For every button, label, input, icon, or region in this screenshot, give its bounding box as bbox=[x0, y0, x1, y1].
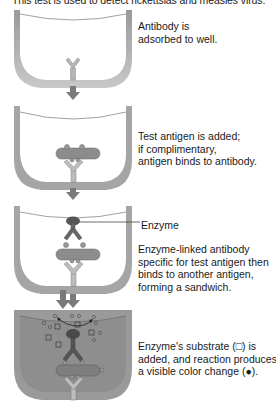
step-3-line-3: binds to another antigen, bbox=[138, 268, 269, 281]
step-2-line-1: Test antigen is added; bbox=[138, 130, 257, 143]
down-arrow-icon bbox=[66, 86, 80, 100]
antibody-icon bbox=[64, 160, 83, 182]
step-1-label: Antibody is adsorbed to well. bbox=[138, 20, 217, 45]
enzyme-callout: Enzyme bbox=[141, 219, 179, 231]
step-2-line-2: if complimentary, bbox=[138, 143, 257, 156]
antibody-icon bbox=[64, 262, 83, 286]
step-3-label: Enzyme-linked antibody specific for test… bbox=[138, 243, 269, 293]
well-1 bbox=[12, 8, 136, 100]
antibody-icon bbox=[66, 58, 80, 80]
step-3-line-1: Enzyme-linked antibody bbox=[138, 243, 269, 256]
step-2-label: Test antigen is added; if complimentary,… bbox=[138, 130, 257, 168]
step-3-line-4: forming a sandwich. bbox=[138, 281, 269, 294]
figure-title: This test is used to detect rickettsias … bbox=[12, 0, 265, 6]
step-2-panel: Test antigen is added; if complimentary,… bbox=[0, 104, 276, 202]
enzyme-icon bbox=[66, 329, 80, 339]
well-4 bbox=[12, 308, 136, 402]
step-4-panel: Enzyme's substrate (□) is added, and rea… bbox=[0, 308, 276, 402]
step-2-line-3: antigen binds to antibody. bbox=[138, 155, 257, 168]
step-3-line-2: specific for test antigen then bbox=[138, 256, 269, 269]
enzyme-linked-antibody-icon bbox=[64, 223, 82, 240]
step-4-line-3: a visible color change (●). bbox=[138, 365, 276, 378]
step-4-label: Enzyme's substrate (□) is added, and rea… bbox=[138, 340, 276, 378]
step-3-panel: Enzyme Enzyme-linked antibody specific f… bbox=[0, 204, 276, 308]
step-4-line-2: added, and reaction produces bbox=[138, 353, 276, 366]
antigen-icon bbox=[56, 243, 100, 264]
step-1-panel: Antibody is adsorbed to well. bbox=[0, 8, 276, 103]
down-arrow-icon bbox=[55, 290, 71, 310]
well-3 bbox=[12, 204, 142, 308]
step-4-line-1: Enzyme's substrate (□) is bbox=[138, 340, 276, 353]
antigen-icon bbox=[56, 145, 100, 163]
well-2 bbox=[12, 104, 136, 200]
step-1-line-1: Antibody is bbox=[138, 20, 217, 33]
step-1-line-2: adsorbed to well. bbox=[138, 33, 217, 46]
